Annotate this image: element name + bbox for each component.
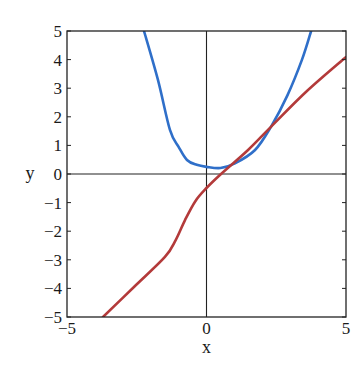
- y-tick-label: 0: [54, 165, 63, 184]
- x-tick-label: 5: [342, 319, 351, 338]
- chart: −5−4−3−2−1012345 −505 x y: [0, 0, 361, 372]
- y-tick-label: −2: [44, 222, 62, 241]
- y-tick-label: −4: [44, 279, 63, 298]
- y-tick-label: −3: [44, 251, 62, 270]
- y-tick-label: −1: [44, 194, 62, 213]
- red-curve: [103, 57, 346, 317]
- y-tick-label: 1: [54, 136, 63, 155]
- y-tick-label: 5: [54, 22, 63, 41]
- x-tick-label: 0: [202, 319, 211, 338]
- y-tick-label: 2: [54, 108, 63, 127]
- x-axis-label: x: [202, 337, 211, 357]
- blue-curve: [144, 31, 311, 168]
- y-tick-label: 3: [54, 79, 63, 98]
- x-axis-ticks: −505: [58, 319, 350, 338]
- y-axis-label: y: [26, 163, 35, 183]
- zero-lines: [67, 31, 346, 317]
- x-tick-label: −5: [58, 319, 76, 338]
- y-tick-label: 4: [54, 51, 63, 70]
